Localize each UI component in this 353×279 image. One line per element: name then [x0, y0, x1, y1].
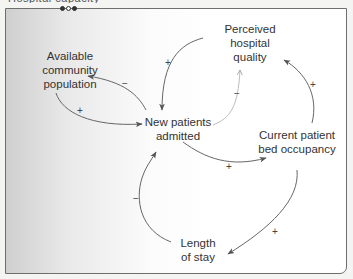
polarity-label: + — [165, 57, 171, 68]
polarity-label: + — [272, 226, 278, 237]
polarity-label: − — [133, 193, 139, 204]
node-label-line: hospital — [224, 36, 275, 50]
node-new-patients-admitted: New patients admitted — [145, 115, 211, 143]
node-label-line: Perceived — [224, 22, 275, 36]
node-label-line: Available — [42, 49, 98, 63]
node-label-line: population — [42, 77, 98, 91]
link-new-to-occupancy — [183, 142, 266, 162]
polarity-label: + — [77, 105, 83, 116]
node-label-line: admitted — [145, 129, 211, 143]
node-current-patient-bed-occupancy: Current patient bed occupancy — [258, 128, 335, 156]
node-label-line: community — [42, 63, 98, 77]
node-available-community-population: Available community population — [42, 49, 98, 91]
node-label-line: quality — [224, 50, 275, 64]
link-stay-to-new — [139, 152, 171, 242]
polarity-label: − — [122, 78, 128, 89]
node-label-line: bed occupancy — [258, 142, 335, 156]
polarity-label: − — [234, 88, 240, 99]
polarity-label: + — [226, 161, 232, 172]
node-perceived-hospital-quality: Perceived hospital quality — [224, 22, 275, 64]
node-label-line: Length — [180, 236, 215, 250]
link-occupancy-to-perceived — [284, 60, 314, 123]
link-occupancy-to-stay — [228, 170, 297, 254]
node-label-line: Current patient — [258, 128, 335, 142]
link-perceived-to-new — [162, 38, 203, 110]
node-length-of-stay: Length of stay — [180, 236, 215, 264]
node-label-line: New patients — [145, 115, 211, 129]
link-available-to-new — [56, 93, 142, 124]
node-label-line: of stay — [180, 250, 215, 264]
polarity-label: + — [310, 79, 316, 90]
